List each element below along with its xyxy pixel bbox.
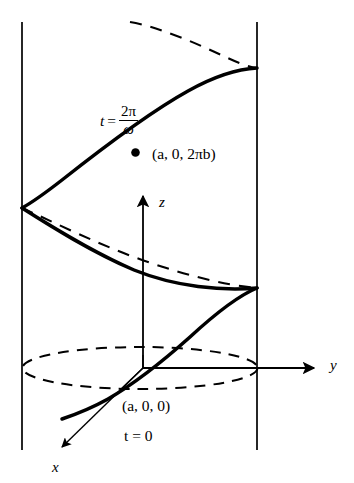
time-upper-variable: t <box>100 112 104 130</box>
time-upper-equals: = <box>107 112 116 130</box>
time-lower-label: t = 0 <box>124 428 153 444</box>
helix-back-arc-top <box>130 22 257 68</box>
helix-back-arc-middle <box>22 208 257 288</box>
time-upper-numerator: 2π <box>119 104 138 121</box>
marked-point-dot <box>131 148 140 157</box>
point-origin-label: (a, 0, 0) <box>122 398 170 414</box>
helix-front-arc-lower <box>22 208 257 289</box>
y-axis-label: y <box>330 358 337 373</box>
helix-front-arc-upper <box>22 68 257 208</box>
time-upper-label: t = 2π ω <box>100 104 138 138</box>
helix-diagram-canvas <box>0 0 354 483</box>
z-axis-label: z <box>159 195 165 210</box>
time-upper-denominator: ω <box>121 121 136 137</box>
time-upper-fraction: 2π ω <box>119 104 138 138</box>
x-axis-label: x <box>52 460 59 475</box>
helix-figure: t = 2π ω (a, 0, 2πb) (a, 0, 0) t = 0 z y… <box>0 0 354 483</box>
point-upper-label: (a, 0, 2πb) <box>152 146 216 162</box>
